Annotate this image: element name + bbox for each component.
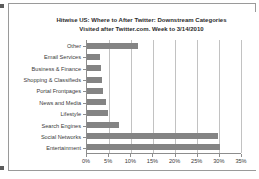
x-axis-tick-label: 20% bbox=[169, 158, 180, 165]
plot-wrapper: OtherEmail ServicesBusiness & FinanceSho… bbox=[23, 40, 259, 170]
y-axis-label-row: Entertainment bbox=[23, 143, 84, 154]
bar bbox=[87, 77, 102, 83]
x-axis-tick-label: 35% bbox=[235, 158, 246, 165]
y-axis-category-label: Entertainment bbox=[46, 145, 81, 151]
x-axis-tick-mark bbox=[241, 154, 242, 157]
x-axis-tick-mark bbox=[197, 154, 198, 157]
x-axis-tick-mark bbox=[175, 154, 176, 157]
bar bbox=[87, 65, 101, 71]
plot-area bbox=[86, 40, 241, 154]
y-axis-category-label: Email Services bbox=[44, 54, 81, 60]
y-axis-label-row: Email Services bbox=[23, 51, 84, 62]
y-axis-category-label: Social Networks bbox=[41, 134, 81, 140]
chart-container: Hitwise US: Where to After Twitter: Down… bbox=[23, 12, 259, 170]
gridline bbox=[241, 40, 242, 153]
chart-title-line-1: Hitwise US: Where to After Twitter: Down… bbox=[31, 16, 252, 25]
chart-frame-border: Hitwise US: Where to After Twitter: Down… bbox=[8, 3, 256, 171]
bar-row bbox=[87, 40, 241, 51]
chart-title-line-2: Visited after Twitter.com. Week to 3/14/… bbox=[31, 25, 252, 34]
x-axis-tick-mark bbox=[219, 154, 220, 157]
bar bbox=[87, 99, 106, 105]
y-axis-category-label: Portal Frontpages bbox=[37, 88, 81, 94]
x-axis-tick-label: 15% bbox=[147, 158, 158, 165]
y-axis-category-labels: OtherEmail ServicesBusiness & FinanceSho… bbox=[23, 40, 84, 154]
bar bbox=[87, 110, 108, 116]
x-axis-tick-label: 30% bbox=[213, 158, 224, 165]
bar bbox=[87, 88, 103, 94]
bar-series bbox=[87, 40, 241, 153]
bar-row bbox=[87, 119, 241, 130]
x-axis-tick-mark bbox=[108, 154, 109, 157]
y-axis-label-row: Lifestyle bbox=[23, 108, 84, 119]
bar bbox=[87, 54, 100, 60]
bar-row bbox=[87, 85, 241, 96]
bar-row bbox=[87, 74, 241, 85]
y-axis-label-row: Shopping & Classifieds bbox=[23, 74, 84, 85]
x-axis-tick-labels: 0%5%10%15%20%25%30%35% bbox=[86, 158, 241, 168]
bar bbox=[87, 122, 119, 128]
x-axis-tick-label: 5% bbox=[104, 158, 112, 165]
y-axis-category-label: Lifestyle bbox=[60, 111, 81, 117]
bar bbox=[87, 43, 138, 49]
page-edge-mark-bottom bbox=[0, 166, 4, 170]
chart-title: Hitwise US: Where to After Twitter: Down… bbox=[31, 16, 252, 33]
y-axis-label-row: News and Media bbox=[23, 97, 84, 108]
bar-row bbox=[87, 108, 241, 119]
y-axis-category-label: Other bbox=[67, 43, 81, 49]
bar bbox=[87, 144, 220, 150]
bar-row bbox=[87, 142, 241, 153]
x-axis-tick-mark bbox=[86, 154, 87, 157]
bar-row bbox=[87, 63, 241, 74]
y-axis-label-row: Social Networks bbox=[23, 131, 84, 142]
bar-row bbox=[87, 51, 241, 62]
bar-row bbox=[87, 130, 241, 141]
y-axis-category-label: Shopping & Classifieds bbox=[23, 77, 81, 83]
x-axis-tick-label: 25% bbox=[191, 158, 202, 165]
x-axis-tick-label: 0% bbox=[82, 158, 90, 165]
y-axis-category-label: Search Engines bbox=[42, 123, 82, 129]
x-axis-tick-label: 10% bbox=[125, 158, 136, 165]
page-edge-mark-top bbox=[0, 4, 4, 8]
y-axis-label-row: Portal Frontpages bbox=[23, 86, 84, 97]
bar bbox=[87, 133, 218, 139]
y-axis-category-label: News and Media bbox=[39, 100, 81, 106]
x-axis-tick-mark bbox=[130, 154, 131, 157]
bar-row bbox=[87, 96, 241, 107]
y-axis-label-row: Other bbox=[23, 40, 84, 51]
y-axis-category-label: Business & Finance bbox=[32, 66, 81, 72]
y-axis-label-row: Business & Finance bbox=[23, 63, 84, 74]
x-axis-tick-mark bbox=[152, 154, 153, 157]
screenshot-root: Hitwise US: Where to After Twitter: Down… bbox=[0, 0, 259, 179]
y-axis-label-row: Search Engines bbox=[23, 120, 84, 131]
